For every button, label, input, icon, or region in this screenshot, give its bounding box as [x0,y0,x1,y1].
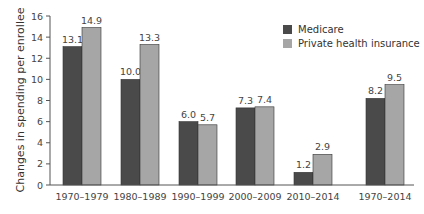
y-axis-label: Changes in spending per enrollee [14,7,27,192]
x-category-label: 2010–2014 [286,191,339,202]
value-label: 10.0 [120,66,141,77]
bar-medicare [179,122,198,185]
value-label: 1.2 [296,159,311,170]
legend-swatch-private [283,39,292,48]
bar-private [82,28,101,185]
y-tick-label: 8 [37,95,43,106]
y-tick-label: 4 [37,137,43,148]
bar-medicare [294,172,313,185]
value-label: 7.4 [257,94,272,105]
bar-medicare [236,108,255,185]
value-label: 14.9 [81,15,102,26]
bar-private [198,125,217,185]
value-label: 5.7 [200,112,215,123]
y-tick-label: 14 [31,32,43,43]
value-label: 13.1 [62,34,83,45]
legend-label-private: Private health insurance [298,38,420,49]
x-category-label: 1990–1999 [171,191,224,202]
bar-medicare [121,79,140,185]
x-axis: 1970–19791980–19891990–19992000–20092010… [50,185,414,202]
y-tick-label: 12 [31,53,43,64]
bar-private [385,85,404,185]
y-tick-label: 0 [37,180,43,191]
x-category-label: 1970–1979 [55,191,108,202]
y-tick-label: 6 [37,116,43,127]
bar-medicare [366,98,385,185]
value-label: 7.3 [238,95,253,106]
x-category-label: 2000–2009 [228,191,281,202]
bar-private [140,45,159,185]
value-label: 9.5 [387,72,402,83]
value-label: 2.9 [315,141,330,152]
legend-label-medicare: Medicare [298,24,344,35]
bar-private [255,107,274,185]
bar-medicare [63,47,82,185]
bar-private [313,154,332,185]
legend: Medicare Private health insurance [283,24,420,49]
y-tick-label: 10 [31,74,43,85]
y-axis: 0246810121416 [31,11,50,191]
value-label: 8.2 [368,85,383,96]
bar-chart: 0246810121416 13.114.910.013.36.05.77.37… [0,0,424,214]
x-category-label: 1970–2014 [358,191,411,202]
legend-swatch-medicare [283,25,292,34]
value-label: 13.3 [139,32,160,43]
y-tick-label: 2 [37,158,43,169]
value-label: 6.0 [181,109,196,120]
x-category-label: 1980–1989 [113,191,166,202]
y-tick-label: 16 [31,11,43,22]
